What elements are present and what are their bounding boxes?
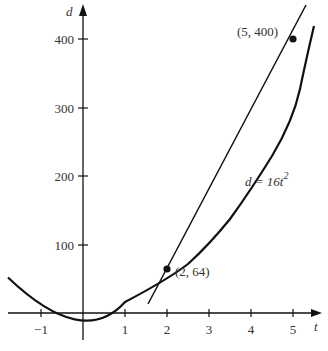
d-tick-label: 200 <box>55 169 75 184</box>
d-axis-arrow-icon <box>79 4 87 16</box>
secant-line <box>148 5 306 304</box>
t-axis-arrow-icon <box>311 309 322 317</box>
d-tick-label: 100 <box>55 238 75 253</box>
t-tick-label: 3 <box>206 322 213 337</box>
t-tick-label: 1 <box>122 322 129 337</box>
t-axis-label: t <box>314 319 318 334</box>
d-tick-label: 300 <box>55 101 75 116</box>
point-5-400 <box>289 35 296 42</box>
t-tick-label: 2 <box>164 322 171 337</box>
point-label-2-64: (2, 64) <box>175 264 210 279</box>
point-2-64 <box>163 265 170 272</box>
t-tick-label: 5 <box>290 322 297 337</box>
chart: −1 1 2 3 4 5 100 200 300 400 t d (2, 64)… <box>0 0 328 351</box>
t-tick-label: 4 <box>248 322 255 337</box>
curve-equation-label: d = 16t2 <box>245 170 288 189</box>
t-tick-label: −1 <box>34 322 48 337</box>
point-label-5-400: (5, 400) <box>237 24 278 39</box>
d-axis-label: d <box>66 4 73 19</box>
d-tick-label: 400 <box>55 32 75 47</box>
